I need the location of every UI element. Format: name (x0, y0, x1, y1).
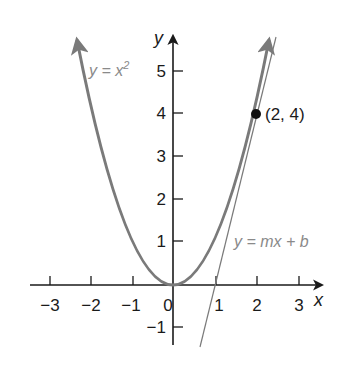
x-tick-label: −3 (40, 296, 59, 315)
tangent-point (251, 109, 261, 119)
tangent-line (200, 37, 276, 347)
y-tick-label: −1 (147, 318, 166, 337)
y-tick-label: 1 (157, 232, 166, 251)
chart: −3 −2 −1 0 1 2 3 −1 1 2 3 4 5 x y (2, 4)… (0, 0, 349, 374)
x-tick-label: −1 (121, 296, 140, 315)
x-tick-label: 1 (214, 296, 223, 315)
y-tick-label: 4 (157, 104, 166, 123)
x-tick-label: 0 (163, 296, 172, 315)
x-tick-label: −2 (81, 296, 100, 315)
y-axis-label: y (152, 28, 164, 48)
x-tick-label: 3 (294, 296, 303, 315)
y-tick-label: 5 (157, 62, 166, 81)
point-label: (2, 4) (265, 105, 305, 124)
y-tick-label: 2 (157, 190, 166, 209)
x-axis-label: x (313, 290, 324, 310)
y-ticks (173, 71, 183, 327)
tangent-line-label: y = mx + b (233, 233, 309, 250)
y-tick-label: 3 (157, 147, 166, 166)
parabola-label: y = x2 (88, 59, 129, 79)
x-tick-label: 2 (252, 296, 261, 315)
